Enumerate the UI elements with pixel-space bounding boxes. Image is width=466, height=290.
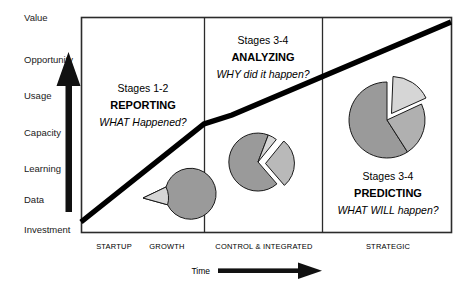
y-axis-label-value: Value [24,12,48,23]
predicting-stages: Stages 3-4 [363,170,414,182]
predicting-title: PREDICTING [354,187,422,199]
panel-analyzing-text: Stages 3-4 ANALYZING WHY did it happen? [216,34,309,80]
startup-growth-pie [143,168,216,219]
time-axis-label: Time [191,266,210,276]
y-axis-label-learning: Learning [24,163,61,174]
time-right-arrow-icon [218,263,322,279]
control-integrated-pie [229,133,295,191]
predicting-question: WHAT WILL happen? [337,204,438,216]
strategic-pie [349,77,426,159]
panel-reporting-text: Stages 1-2 REPORTING WHAT Happened? [99,82,187,128]
panel-predicting-text: Stages 3-4 PREDICTING WHAT WILL happen? [337,170,438,216]
phase-label-control: CONTROL & INTEGRATED [215,242,313,251]
y-axis-label-data: Data [24,194,45,205]
analyzing-question: WHY did it happen? [216,68,309,80]
reporting-stages: Stages 1-2 [118,82,169,94]
analyzing-title: ANALYZING [231,51,294,63]
pie1-slice-light [143,187,169,205]
y-axis-label-investment: Investment [24,224,71,235]
phase-label-startup: STARTUP [96,242,132,251]
reporting-title: REPORTING [110,99,175,111]
time-axis: Time [191,263,322,279]
phase-label-strategic: STRATEGIC [366,242,411,251]
diagram-canvas: Value Opportunity Usage Capacity Learnin… [0,0,466,290]
phase-label-growth: GROWTH [149,242,184,251]
y-axis-label-capacity: Capacity [24,127,61,138]
reporting-question: WHAT Happened? [99,116,187,128]
analyzing-stages: Stages 3-4 [238,34,289,46]
x-axis-phase-labels: STARTUP GROWTH CONTROL & INTEGRATED STRA… [96,242,410,251]
analytics-maturity-diagram: Value Opportunity Usage Capacity Learnin… [0,0,466,290]
y-axis-label-usage: Usage [24,90,51,101]
